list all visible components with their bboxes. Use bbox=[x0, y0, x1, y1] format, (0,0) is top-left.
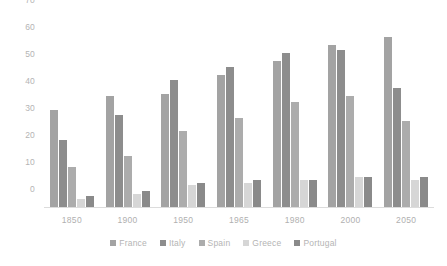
x-tick-cell: 1900 bbox=[100, 209, 156, 229]
y-tick-label: 60 bbox=[25, 22, 35, 32]
bar-greece-1965 bbox=[244, 183, 252, 207]
legend-item-spain[interactable]: Spain bbox=[199, 238, 231, 248]
bar-greece-1980 bbox=[300, 180, 308, 207]
chart-legend: FranceItalySpainGreecePortugal bbox=[0, 234, 447, 252]
bar-italy-1980 bbox=[282, 53, 290, 207]
bar-italy-2050 bbox=[393, 88, 401, 207]
bar-france-1850 bbox=[50, 110, 58, 207]
bar-spain-1965 bbox=[235, 118, 243, 207]
y-tick-label: 30 bbox=[25, 103, 35, 113]
bar-greece-1950 bbox=[188, 185, 196, 207]
bar-portugal-1980 bbox=[309, 180, 317, 207]
legend-item-italy[interactable]: Italy bbox=[160, 238, 186, 248]
bar-group bbox=[211, 18, 267, 207]
bar-france-1900 bbox=[106, 96, 114, 207]
bar-portugal-1850 bbox=[86, 196, 94, 207]
x-tick-cell: 1850 bbox=[44, 209, 100, 229]
x-tick-label: 1900 bbox=[118, 215, 138, 225]
bar-spain-1980 bbox=[291, 102, 299, 207]
bar-italy-2000 bbox=[337, 50, 345, 207]
y-tick-label: 40 bbox=[25, 76, 35, 86]
bar-portugal-1965 bbox=[253, 180, 261, 207]
legend-swatch-icon bbox=[243, 240, 249, 246]
bar-france-2050 bbox=[384, 37, 392, 207]
bar-italy-1900 bbox=[115, 115, 123, 207]
plot-area bbox=[44, 18, 434, 207]
x-tick-label: 1980 bbox=[285, 215, 305, 225]
x-tick-label: 1965 bbox=[229, 215, 249, 225]
bar-greece-1900 bbox=[133, 194, 141, 208]
y-tick-label: 70 bbox=[25, 0, 35, 5]
x-tick-cell: 2050 bbox=[378, 209, 434, 229]
legend-swatch-icon bbox=[199, 240, 205, 246]
x-tick-cell: 2000 bbox=[323, 209, 379, 229]
x-tick-label: 1850 bbox=[62, 215, 82, 225]
bar-france-1965 bbox=[217, 75, 225, 207]
bar-portugal-2050 bbox=[420, 177, 428, 207]
legend-item-france[interactable]: France bbox=[110, 238, 147, 248]
x-tick-label: 2000 bbox=[340, 215, 360, 225]
y-tick-label: 20 bbox=[25, 130, 35, 140]
legend-swatch-icon bbox=[110, 240, 116, 246]
bar-spain-1850 bbox=[68, 167, 76, 208]
x-axis: 1850190019501965198020002050 bbox=[44, 209, 434, 229]
legend-label: Spain bbox=[208, 238, 231, 248]
bar-spain-2000 bbox=[346, 96, 354, 207]
bar-group bbox=[323, 18, 379, 207]
x-tick-cell: 1950 bbox=[155, 209, 211, 229]
legend-label: Portugal bbox=[303, 238, 336, 248]
bar-group bbox=[267, 18, 323, 207]
legend-swatch-icon bbox=[294, 240, 300, 246]
bar-group bbox=[155, 18, 211, 207]
y-tick-label: 10 bbox=[25, 157, 35, 167]
x-tick-label: 2050 bbox=[396, 215, 416, 225]
bar-italy-1965 bbox=[226, 67, 234, 207]
legend-item-greece[interactable]: Greece bbox=[243, 238, 281, 248]
legend-label: France bbox=[119, 238, 147, 248]
bar-portugal-1900 bbox=[142, 191, 150, 207]
bar-france-1980 bbox=[273, 61, 281, 207]
bar-group bbox=[378, 18, 434, 207]
x-tick-cell: 1980 bbox=[267, 209, 323, 229]
x-tick-cell: 1965 bbox=[211, 209, 267, 229]
y-tick-label: 50 bbox=[25, 49, 35, 59]
y-axis: 010203040506070 bbox=[0, 0, 44, 215]
y-tick-label: 0 bbox=[30, 184, 35, 194]
bar-greece-2000 bbox=[355, 177, 363, 207]
bar-france-1950 bbox=[161, 94, 169, 207]
bar-spain-1950 bbox=[179, 131, 187, 207]
bar-spain-1900 bbox=[124, 156, 132, 207]
bar-italy-1950 bbox=[170, 80, 178, 207]
bar-greece-1850 bbox=[77, 199, 85, 207]
bar-portugal-2000 bbox=[364, 177, 372, 207]
bar-group bbox=[100, 18, 156, 207]
bar-france-2000 bbox=[328, 45, 336, 207]
bar-greece-2050 bbox=[411, 180, 419, 207]
legend-label: Greece bbox=[252, 238, 281, 248]
legend-item-portugal[interactable]: Portugal bbox=[294, 238, 336, 248]
bar-group bbox=[44, 18, 100, 207]
bar-portugal-1950 bbox=[197, 183, 205, 207]
legend-swatch-icon bbox=[160, 240, 166, 246]
bar-chart: 010203040506070 185019001950196519802000… bbox=[0, 0, 447, 266]
x-tick-label: 1950 bbox=[173, 215, 193, 225]
x-axis-line bbox=[44, 207, 434, 208]
bar-italy-1850 bbox=[59, 140, 67, 208]
bar-spain-2050 bbox=[402, 121, 410, 207]
legend-label: Italy bbox=[169, 238, 186, 248]
